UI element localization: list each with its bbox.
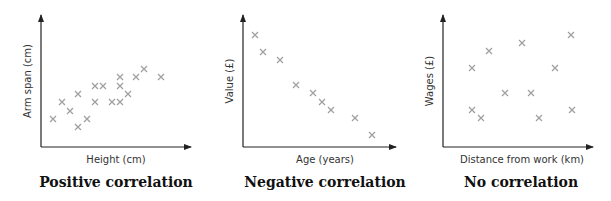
data-point-cross-icon	[569, 107, 575, 113]
data-point-cross-icon	[117, 99, 123, 105]
data-point-cross-icon	[319, 99, 325, 105]
data-point-cross-icon	[568, 32, 574, 38]
data-point-cross-icon	[519, 40, 525, 46]
caption-positive-correlation: Positive correlation	[16, 174, 216, 190]
positive-correlation-plot	[41, 15, 191, 147]
data-point-cross-icon	[260, 49, 266, 55]
data-point-cross-icon	[117, 74, 123, 80]
no-correlation-plot	[443, 15, 593, 147]
data-point-cross-icon	[59, 99, 65, 105]
data-point-cross-icon	[84, 116, 90, 122]
y-axis-label-positive: Arm span (cm)	[22, 44, 33, 118]
data-point-cross-icon	[75, 91, 81, 97]
data-point-cross-icon	[469, 107, 475, 113]
x-axis-label-positive: Height (cm)	[86, 154, 145, 165]
data-point-cross-icon	[486, 48, 492, 54]
data-point-cross-icon	[100, 83, 106, 89]
data-point-cross-icon	[293, 82, 299, 88]
x-axis-label-negative: Age (years)	[296, 154, 354, 165]
caption-no-correlation: No correlation	[421, 174, 611, 190]
data-point-cross-icon	[133, 74, 139, 80]
data-point-cross-icon	[92, 99, 98, 105]
data-point-cross-icon	[252, 32, 258, 38]
negative-correlation-plot	[243, 15, 396, 147]
caption-negative-correlation: Negative correlation	[225, 174, 425, 190]
data-point-cross-icon	[125, 91, 131, 97]
data-point-cross-icon	[75, 124, 81, 130]
y-axis-label-none: Wages (£)	[424, 56, 435, 107]
data-point-cross-icon	[158, 74, 164, 80]
data-point-cross-icon	[50, 116, 56, 122]
data-point-cross-icon	[92, 83, 98, 89]
data-point-cross-icon	[328, 107, 334, 113]
data-point-cross-icon	[67, 108, 73, 114]
y-axis-label-negative: Value (£)	[224, 59, 235, 104]
data-point-cross-icon	[528, 90, 534, 96]
data-point-cross-icon	[310, 90, 316, 96]
x-axis-label-none: Distance from work (km)	[460, 154, 584, 165]
data-point-cross-icon	[552, 65, 558, 71]
data-point-cross-icon	[117, 83, 123, 89]
data-point-cross-icon	[141, 66, 147, 72]
data-point-cross-icon	[478, 115, 484, 121]
data-point-cross-icon	[469, 65, 475, 71]
data-point-cross-icon	[369, 132, 375, 138]
data-point-cross-icon	[352, 115, 358, 121]
data-point-cross-icon	[536, 115, 542, 121]
data-point-cross-icon	[502, 90, 508, 96]
scatter-plots: Height (cm) Arm span (cm) Age (years) Va…	[0, 0, 611, 201]
data-point-cross-icon	[277, 57, 283, 63]
data-point-cross-icon	[109, 99, 115, 105]
